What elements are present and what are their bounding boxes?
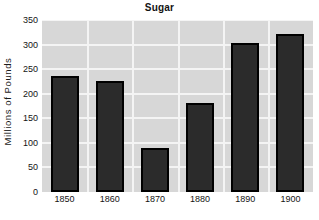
y-axis-tick-label: 300 (12, 40, 38, 50)
y-axis-tick-label: 0 (12, 187, 38, 197)
bar-1860 (96, 81, 124, 192)
bar-1880 (186, 103, 214, 192)
bar-1900 (276, 34, 304, 192)
x-axis-tick-label: 1890 (235, 194, 255, 204)
x-axis-tick-label: 1870 (145, 194, 165, 204)
bar-chart: Sugar Millions of Pounds 050100150200250… (0, 0, 319, 220)
y-axis-tick-labels: 050100150200250300350 (10, 0, 38, 220)
gridline-vertical (268, 20, 270, 192)
y-axis-tick-label: 50 (12, 162, 38, 172)
x-axis-tick-labels: 185018601870188018901900 (42, 194, 313, 210)
bar-1870 (141, 148, 169, 192)
x-axis-tick-label: 1900 (280, 194, 300, 204)
x-axis-tick-label: 1860 (100, 194, 120, 204)
gridline-vertical (132, 20, 134, 192)
gridline-vertical (178, 20, 180, 192)
y-axis-tick-label: 100 (12, 138, 38, 148)
x-axis-tick-label: 1880 (190, 194, 210, 204)
y-axis-tick-label: 200 (12, 89, 38, 99)
y-axis-tick-label: 250 (12, 64, 38, 74)
y-axis-tick-label: 350 (12, 15, 38, 25)
chart-title: Sugar (0, 2, 319, 13)
bar-1890 (231, 43, 259, 192)
gridline-vertical (223, 20, 225, 192)
x-axis-tick-label: 1850 (55, 194, 75, 204)
bar-1850 (51, 76, 79, 192)
plot-area (42, 20, 313, 192)
y-axis-tick-label: 150 (12, 113, 38, 123)
gridline-vertical (87, 20, 89, 192)
